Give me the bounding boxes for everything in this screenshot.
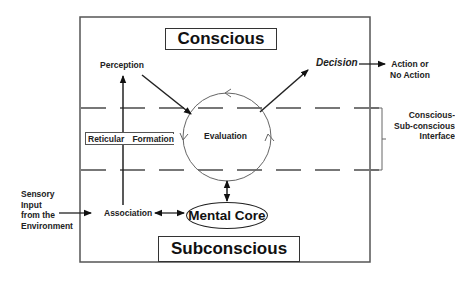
reticular-formation-box: Reticular Formation bbox=[85, 132, 174, 145]
association-label: Association bbox=[104, 208, 152, 219]
evaluation-to-decision-arrow bbox=[260, 70, 308, 112]
reticular-label: Reticular bbox=[88, 134, 124, 144]
action-label: Action or No Action bbox=[390, 59, 430, 80]
mental-core-label: Mental Core bbox=[188, 208, 265, 223]
subconscious-title: Subconscious bbox=[158, 236, 300, 262]
interface-label: Conscious- Sub-conscious Interface bbox=[394, 110, 455, 142]
interface-bracket bbox=[370, 108, 382, 170]
sensory-input-label: Sensory Input from the Environment bbox=[21, 189, 73, 231]
evaluation-label: Evaluation bbox=[204, 131, 247, 142]
mental-core-node: Mental Core bbox=[186, 202, 268, 229]
conscious-title: Conscious bbox=[165, 28, 277, 50]
decision-label: Decision bbox=[316, 58, 358, 69]
perception-label: Perception bbox=[100, 60, 144, 71]
formation-label: Formation bbox=[132, 134, 174, 144]
